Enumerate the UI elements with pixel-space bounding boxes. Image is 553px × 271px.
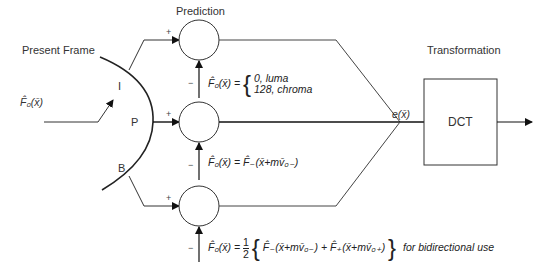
intra-equation-lhs: F̂₀(x̄) = <box>208 77 240 89</box>
plus-sign-intra: + <box>166 27 171 37</box>
switch-label-p: P <box>131 116 138 128</box>
left-brace-icon: { <box>252 234 260 261</box>
summing-node-predicted <box>179 102 219 142</box>
minus-sign-predicted: − <box>188 160 193 170</box>
fraction-denominator: 2 <box>243 248 249 260</box>
input-signal-label: F̂₀(x̄) <box>20 96 43 108</box>
plus-sign-predicted: + <box>166 109 171 119</box>
minus-sign-bidirectional: − <box>188 243 193 253</box>
summing-node-bidirectional <box>179 186 219 226</box>
input-line <box>44 100 113 122</box>
left-brace-icon: { <box>243 70 251 97</box>
intra-equation: F̂₀(x̄) = { 0, luma 128, chroma <box>208 72 312 96</box>
present-frame-label: Present Frame <box>22 44 95 56</box>
b-branch-line <box>129 176 179 206</box>
right-brace-icon: } <box>388 234 396 261</box>
dct-label: DCT <box>448 115 473 129</box>
bidirectional-equation-lhs: F̂₀(x̄) = <box>208 241 240 253</box>
switch-label-b: B <box>118 162 125 174</box>
bidirectional-note: for bidirectional use <box>403 241 494 253</box>
bidirectional-equation: F̂₀(x̄) = 1 2 { F̂₋(x̄+mv̄₀₋) + F̂₊(x̄+m… <box>208 236 494 260</box>
plus-sign-bidirectional: + <box>166 193 171 203</box>
present-frame-arc <box>100 57 153 190</box>
predicted-equation: F̂₀(x̄) = F̂₋(x̄+mv̄₀₋) <box>208 156 298 168</box>
intra-case-chroma: 128, chroma <box>254 83 312 95</box>
switch-label-i: I <box>118 80 121 92</box>
error-signal-label: e(x̄) <box>392 108 410 120</box>
prediction-label: Prediction <box>176 5 225 17</box>
minus-sign-intra: − <box>188 78 193 88</box>
fraction-numerator: 1 <box>243 236 249 248</box>
diagram-lines <box>0 0 553 271</box>
bidirectional-equation-rhs: F̂₋(x̄+mv̄₀₋) + F̂₊(x̄+mv̄₀₊) <box>263 241 385 253</box>
transformation-label: Transformation <box>427 44 501 56</box>
i-branch-line <box>129 40 179 70</box>
summing-node-intra <box>179 20 219 60</box>
